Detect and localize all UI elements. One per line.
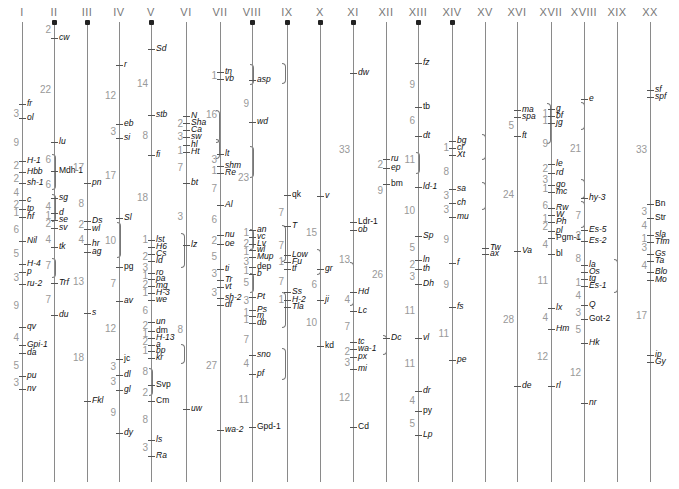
locus-tick [51, 142, 58, 143]
locus-label: dt [423, 130, 430, 140]
locus-label: Mo [655, 274, 667, 284]
chromosome-line [320, 22, 321, 482]
locus-label: sno [257, 349, 271, 359]
locus-tick [647, 362, 654, 363]
chromosome-label: IV [104, 6, 134, 18]
locus-tick [217, 79, 224, 80]
map-distance: 3 [159, 211, 183, 222]
centromere-marker [149, 20, 154, 25]
locus-tick [317, 346, 324, 347]
locus-tick [19, 172, 26, 173]
locus-tick [284, 269, 291, 270]
locus-label: th [423, 263, 430, 273]
chromosome-label: XI [338, 6, 368, 18]
locus-tick [148, 345, 155, 346]
locus-label: rl [556, 380, 561, 390]
locus-tick [249, 374, 256, 375]
map-distance: 1 [225, 314, 249, 325]
locus-tick [19, 241, 26, 242]
map-distance: 21 [557, 143, 581, 154]
locus-tick [548, 238, 555, 239]
locus-label: mc [556, 186, 567, 196]
locus-tick [581, 272, 588, 273]
map-distance: 6 [193, 214, 217, 225]
map-distance: 23 [225, 172, 249, 183]
map-distance: 7 [92, 278, 116, 289]
locus-tick [19, 118, 26, 119]
locus-label: ax [490, 248, 499, 258]
locus-label: Es-5 [589, 224, 606, 234]
locus-tick [415, 284, 422, 285]
locus-tick [148, 115, 155, 116]
map-distance: 1 [124, 345, 148, 356]
locus-tick [183, 409, 190, 410]
map-distance: 3 [425, 204, 449, 215]
locus-tick [581, 99, 588, 100]
locus-label: s [92, 307, 96, 317]
chromosome-line [551, 22, 552, 482]
chromosome-line [54, 22, 55, 482]
locus-label: Es-1 [589, 280, 606, 290]
locus-label: pf [257, 368, 264, 378]
locus-label: fs [457, 301, 464, 311]
map-distance: 1 [557, 277, 581, 288]
chromosome-label: VII [205, 6, 235, 18]
map-distance: 8 [124, 130, 148, 141]
locus-tick [350, 311, 357, 312]
centromere-marker [450, 20, 455, 25]
locus-tick [116, 65, 123, 66]
map-distance: 2 [124, 251, 148, 262]
map-distance: 7 [326, 321, 350, 332]
chromosome-label: VI [171, 6, 201, 18]
map-distance: 3 [92, 376, 116, 387]
locus-tick [249, 427, 256, 428]
centromere-marker [85, 20, 90, 25]
map-distance: 11 [425, 328, 449, 339]
locus-label: lu [59, 136, 66, 146]
locus-label: qk [292, 189, 301, 199]
chromosome-label: XV [470, 6, 500, 18]
map-distance: 3 [0, 108, 19, 119]
map-distance: 1 [524, 183, 548, 194]
map-distance: 11 [225, 394, 249, 405]
map-distance: 7 [260, 276, 284, 287]
map-distance: 3 [425, 190, 449, 201]
locus-tick [19, 376, 26, 377]
linkage-bracket [282, 63, 286, 84]
map-distance: 16 [193, 109, 217, 120]
locus-tick [581, 343, 588, 344]
locus-tick [514, 136, 521, 137]
locus-tick [116, 301, 123, 302]
locus-tick [148, 240, 155, 241]
locus-tick [449, 189, 456, 190]
locus-tick [116, 375, 123, 376]
map-distance: 2 [0, 173, 19, 184]
chromosome-line [151, 22, 152, 482]
locus-label: qv [27, 321, 36, 331]
locus-tick [148, 261, 155, 262]
locus-tick [581, 198, 588, 199]
locus-label: Str [655, 212, 666, 222]
locus-tick [415, 63, 422, 64]
chromosome-line [517, 22, 518, 482]
locus-tick [284, 262, 291, 263]
map-distance: 24 [490, 189, 514, 200]
locus-label: db [257, 317, 266, 327]
map-distance: 2 [124, 387, 148, 398]
locus-tick [350, 349, 357, 350]
locus-tick [116, 138, 123, 139]
locus-tick [183, 116, 190, 117]
locus-tick [548, 329, 555, 330]
locus-tick [548, 308, 555, 309]
locus-tick [249, 237, 256, 238]
locus-tick [249, 323, 256, 324]
map-distance: 7 [27, 260, 51, 271]
locus-tick [148, 286, 155, 287]
locus-label: lt [225, 148, 229, 158]
chromosome-label: XVII [536, 6, 566, 18]
locus-tick [581, 305, 588, 306]
chromosome-label: XVIII [569, 6, 599, 18]
locus-tick [415, 187, 422, 188]
map-distance: 2 [159, 118, 183, 129]
locus-label: Q [589, 299, 596, 309]
